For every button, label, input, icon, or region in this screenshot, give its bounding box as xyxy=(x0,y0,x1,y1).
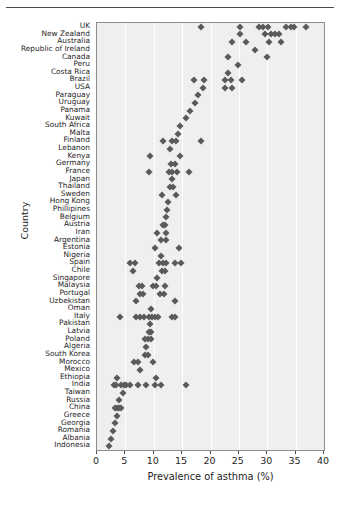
data-point xyxy=(302,23,309,30)
data-point xyxy=(169,176,176,183)
gridline xyxy=(296,23,297,450)
data-point xyxy=(150,359,157,366)
data-point xyxy=(235,61,242,68)
data-point xyxy=(108,435,115,442)
data-point xyxy=(200,84,207,91)
x-axis-tick-label: 10 xyxy=(147,455,159,466)
data-point xyxy=(158,252,165,259)
data-point xyxy=(116,397,123,404)
data-point xyxy=(110,427,117,434)
x-axis-tick xyxy=(181,451,182,454)
data-point xyxy=(166,145,173,152)
data-point xyxy=(229,39,236,46)
header-rule xyxy=(6,7,334,8)
data-point xyxy=(194,92,201,99)
data-point xyxy=(163,237,170,244)
data-point xyxy=(172,298,179,305)
data-point xyxy=(163,206,170,213)
data-point xyxy=(191,100,198,107)
data-point xyxy=(160,290,167,297)
data-point xyxy=(159,138,166,145)
data-point xyxy=(242,39,249,46)
x-axis-tick-label: 40 xyxy=(317,455,329,466)
gridline xyxy=(239,23,240,450)
data-point xyxy=(185,168,192,175)
x-axis-tick xyxy=(266,451,267,454)
data-point xyxy=(142,382,149,389)
data-point xyxy=(198,23,205,30)
data-point xyxy=(190,77,197,84)
data-point xyxy=(130,267,137,274)
data-point xyxy=(162,283,169,290)
data-point xyxy=(225,54,232,61)
data-point xyxy=(221,84,228,91)
data-point xyxy=(174,130,181,137)
data-point xyxy=(154,229,161,236)
data-point xyxy=(228,77,235,84)
data-point xyxy=(136,366,143,373)
x-axis-tick xyxy=(153,451,154,454)
y-axis-label: Indonesia xyxy=(54,441,90,448)
gridline xyxy=(267,23,268,450)
data-point xyxy=(183,382,190,389)
y-axis-category-labels: UKNew ZealandAustraliaRepublic of Irelan… xyxy=(0,22,93,451)
data-point xyxy=(236,23,243,30)
data-point xyxy=(105,443,112,450)
x-axis-tick-label: 15 xyxy=(175,455,187,466)
data-point xyxy=(146,153,153,160)
data-point xyxy=(171,161,178,168)
x-axis-tick xyxy=(210,451,211,454)
x-axis-ticks: 0510152025303540 xyxy=(96,451,325,467)
x-axis-tick xyxy=(238,451,239,454)
asthma-prevalence-chart: Country UKNew ZealandAustraliaRepublic o… xyxy=(0,0,340,527)
data-point xyxy=(152,374,159,381)
data-point xyxy=(229,84,236,91)
data-point xyxy=(135,382,142,389)
data-point xyxy=(112,420,119,427)
data-point xyxy=(116,313,123,320)
data-point xyxy=(151,244,158,251)
data-point xyxy=(164,199,171,206)
data-point xyxy=(264,54,271,61)
x-axis-tick-label: 0 xyxy=(93,455,99,466)
x-axis-tick-label: 5 xyxy=(121,455,127,466)
data-point xyxy=(131,260,138,267)
data-point xyxy=(198,138,205,145)
data-point xyxy=(278,39,285,46)
data-point xyxy=(177,260,184,267)
gridline xyxy=(211,23,212,450)
data-point xyxy=(187,107,194,114)
data-point xyxy=(173,191,180,198)
x-axis-tick-label: 30 xyxy=(260,455,272,466)
data-point xyxy=(173,138,180,145)
data-point xyxy=(172,313,179,320)
data-point xyxy=(142,344,149,351)
x-axis-tick-label: 35 xyxy=(289,455,301,466)
data-point xyxy=(162,214,169,221)
data-point xyxy=(113,374,120,381)
data-point xyxy=(158,382,165,389)
data-point xyxy=(173,168,180,175)
data-point xyxy=(135,359,142,366)
data-point xyxy=(163,229,170,236)
x-axis-tick-label: 20 xyxy=(203,455,215,466)
data-point xyxy=(276,31,283,38)
x-axis-tick xyxy=(96,451,97,454)
data-point xyxy=(291,23,298,30)
x-axis-tick xyxy=(124,451,125,454)
data-point xyxy=(133,298,140,305)
data-point xyxy=(159,191,166,198)
x-axis-tick-label: 25 xyxy=(232,455,244,466)
plot-area xyxy=(96,22,325,451)
data-point xyxy=(127,382,134,389)
data-point xyxy=(224,69,231,76)
data-point xyxy=(251,46,258,53)
x-axis-title: Prevalence of asthma (%) xyxy=(96,471,325,482)
data-point xyxy=(146,168,153,175)
x-axis-tick xyxy=(295,451,296,454)
data-point xyxy=(236,31,243,38)
x-axis-tick xyxy=(323,451,324,454)
data-point xyxy=(200,77,207,84)
